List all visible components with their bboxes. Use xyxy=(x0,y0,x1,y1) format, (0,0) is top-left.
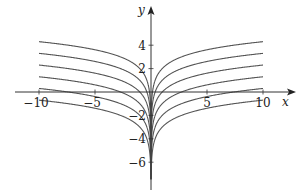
y-tick-label: −4 xyxy=(128,132,146,146)
x-tick-label: 5 xyxy=(203,96,211,110)
x-tick-label: −5 xyxy=(83,96,101,110)
y-tick-label: −2 xyxy=(128,109,146,123)
chart-plot: −10−5510 42−2−4−6 x y xyxy=(0,0,302,193)
curve-line xyxy=(151,100,263,179)
y-tick-label: 4 xyxy=(138,39,146,53)
y-tick-label: −6 xyxy=(128,156,146,170)
x-tick-label: −10 xyxy=(23,96,48,110)
x-axis-label: x xyxy=(282,95,289,109)
curve-line xyxy=(151,65,263,173)
y-axis-label: y xyxy=(137,3,145,17)
x-tick-label: 10 xyxy=(255,96,270,110)
y-tick-label: 2 xyxy=(138,62,146,76)
